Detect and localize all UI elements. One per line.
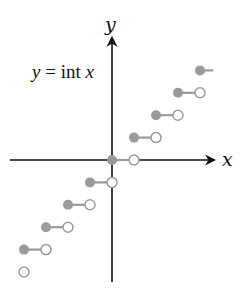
open-dot <box>107 177 117 187</box>
step-segment <box>151 110 183 120</box>
closed-dot <box>151 110 161 120</box>
step-segment <box>129 133 161 143</box>
closed-dot <box>19 245 29 255</box>
closed-dot <box>107 155 117 165</box>
step-segment <box>19 245 51 255</box>
open-dot <box>85 200 95 210</box>
step-segment <box>107 155 139 165</box>
closed-dot <box>41 222 51 232</box>
closed-dot <box>195 65 205 75</box>
step-segment <box>173 88 205 98</box>
step-series <box>19 65 213 277</box>
function-label: y = int x <box>30 61 94 82</box>
step-segment <box>19 267 29 277</box>
step-segment <box>63 200 95 210</box>
open-dot <box>195 88 205 98</box>
closed-dot <box>85 177 95 187</box>
y-axis-label: y <box>104 13 116 35</box>
step-segment <box>195 65 213 75</box>
step-function-chart: x y y = int x <box>0 0 244 302</box>
open-dot <box>19 267 29 277</box>
closed-dot <box>63 200 73 210</box>
open-dot <box>41 245 51 255</box>
open-dot <box>151 133 161 143</box>
open-dot <box>173 110 183 120</box>
step-segment <box>41 222 73 232</box>
step-segment <box>85 177 117 187</box>
open-dot <box>129 155 139 165</box>
closed-dot <box>129 133 139 143</box>
closed-dot <box>173 88 183 98</box>
open-dot <box>63 222 73 232</box>
x-axis-label: x <box>222 148 233 170</box>
